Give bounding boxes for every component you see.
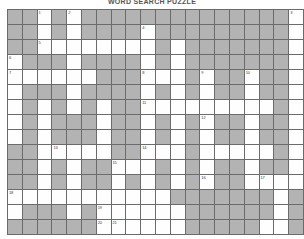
open-cell[interactable] xyxy=(141,130,156,145)
open-cell[interactable] xyxy=(155,190,170,205)
open-cell[interactable] xyxy=(52,40,67,55)
open-cell[interactable] xyxy=(155,70,170,85)
open-cell[interactable]: 12 xyxy=(200,115,215,130)
open-cell[interactable] xyxy=(244,160,259,175)
open-cell[interactable] xyxy=(126,160,141,175)
open-cell[interactable] xyxy=(141,220,156,235)
open-cell[interactable] xyxy=(67,70,82,85)
open-cell[interactable] xyxy=(126,205,141,220)
open-cell[interactable] xyxy=(170,115,185,130)
open-cell[interactable] xyxy=(141,55,156,70)
open-cell[interactable]: 16 xyxy=(200,175,215,190)
open-cell[interactable] xyxy=(229,145,244,160)
open-cell[interactable] xyxy=(81,70,96,85)
open-cell[interactable] xyxy=(289,85,304,100)
open-cell[interactable] xyxy=(289,40,304,55)
open-cell[interactable] xyxy=(96,145,111,160)
open-cell[interactable] xyxy=(155,100,170,115)
open-cell[interactable] xyxy=(170,205,185,220)
open-cell[interactable] xyxy=(37,115,52,130)
open-cell[interactable] xyxy=(111,190,126,205)
open-cell[interactable] xyxy=(67,40,82,55)
open-cell[interactable] xyxy=(170,40,185,55)
open-cell[interactable] xyxy=(244,175,259,190)
open-cell[interactable] xyxy=(37,100,52,115)
open-cell[interactable] xyxy=(67,205,82,220)
open-cell[interactable] xyxy=(52,70,67,85)
open-cell[interactable] xyxy=(52,190,67,205)
open-cell[interactable] xyxy=(244,145,259,160)
open-cell[interactable] xyxy=(244,100,259,115)
open-cell[interactable] xyxy=(289,100,304,115)
open-cell[interactable]: 11 xyxy=(141,100,156,115)
open-cell[interactable] xyxy=(111,40,126,55)
open-cell[interactable] xyxy=(141,190,156,205)
open-cell[interactable] xyxy=(170,175,185,190)
open-cell[interactable] xyxy=(200,130,215,145)
open-cell[interactable] xyxy=(244,115,259,130)
open-cell[interactable] xyxy=(96,40,111,55)
open-cell[interactable] xyxy=(215,100,230,115)
open-cell[interactable] xyxy=(170,145,185,160)
open-cell[interactable] xyxy=(67,100,82,115)
open-cell[interactable] xyxy=(141,115,156,130)
open-cell[interactable] xyxy=(22,190,37,205)
open-cell[interactable] xyxy=(274,220,289,235)
open-cell[interactable] xyxy=(111,175,126,190)
open-cell[interactable]: 18 xyxy=(8,190,23,205)
open-cell[interactable] xyxy=(37,190,52,205)
open-cell[interactable] xyxy=(111,205,126,220)
open-cell[interactable] xyxy=(37,160,52,175)
open-cell[interactable]: 6 xyxy=(8,55,23,70)
open-cell[interactable] xyxy=(170,100,185,115)
open-cell[interactable] xyxy=(289,145,304,160)
open-cell[interactable] xyxy=(170,70,185,85)
open-cell[interactable] xyxy=(22,70,37,85)
open-cell[interactable] xyxy=(170,130,185,145)
open-cell[interactable]: 10 xyxy=(244,70,259,85)
open-cell[interactable] xyxy=(37,70,52,85)
open-cell[interactable] xyxy=(200,160,215,175)
open-cell[interactable]: 9 xyxy=(200,70,215,85)
open-cell[interactable] xyxy=(67,145,82,160)
open-cell[interactable]: 19 xyxy=(96,205,111,220)
open-cell[interactable] xyxy=(155,220,170,235)
open-cell[interactable] xyxy=(200,100,215,115)
open-cell[interactable] xyxy=(81,145,96,160)
open-cell[interactable] xyxy=(170,220,185,235)
open-cell[interactable] xyxy=(81,40,96,55)
open-cell[interactable]: 4 xyxy=(141,25,156,40)
open-cell[interactable] xyxy=(289,130,304,145)
open-cell[interactable] xyxy=(126,40,141,55)
open-cell[interactable] xyxy=(8,85,23,100)
open-cell[interactable]: 7 xyxy=(8,70,23,85)
open-cell[interactable] xyxy=(155,145,170,160)
open-cell[interactable]: 2 xyxy=(67,10,82,25)
open-cell[interactable]: 8 xyxy=(141,70,156,85)
open-cell[interactable] xyxy=(37,130,52,145)
open-cell[interactable] xyxy=(170,55,185,70)
open-cell[interactable] xyxy=(96,130,111,145)
open-cell[interactable]: 5 xyxy=(37,40,52,55)
open-cell[interactable]: 17 xyxy=(259,175,274,190)
open-cell[interactable] xyxy=(67,175,82,190)
open-cell[interactable] xyxy=(155,205,170,220)
open-cell[interactable] xyxy=(67,25,82,40)
open-cell[interactable] xyxy=(244,85,259,100)
open-cell[interactable] xyxy=(81,190,96,205)
open-cell[interactable] xyxy=(215,145,230,160)
open-cell[interactable]: 14 xyxy=(141,145,156,160)
open-cell[interactable] xyxy=(289,115,304,130)
open-cell[interactable]: 1 xyxy=(37,10,52,25)
open-cell[interactable] xyxy=(259,145,274,160)
open-cell[interactable] xyxy=(141,85,156,100)
open-cell[interactable] xyxy=(274,205,289,220)
open-cell[interactable] xyxy=(96,100,111,115)
open-cell[interactable] xyxy=(141,175,156,190)
open-cell[interactable] xyxy=(274,190,289,205)
open-cell[interactable] xyxy=(289,55,304,70)
open-cell[interactable] xyxy=(96,190,111,205)
open-cell[interactable] xyxy=(289,160,304,175)
open-cell[interactable] xyxy=(37,145,52,160)
open-cell[interactable]: 21 xyxy=(111,220,126,235)
